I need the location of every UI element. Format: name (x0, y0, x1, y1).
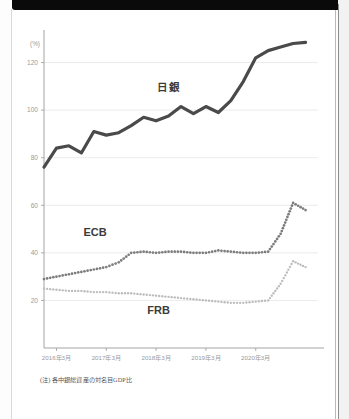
series-dot-ECB (145, 251, 148, 254)
x-tick-label: 2016年3月 (42, 354, 71, 362)
series-dot-ECB (276, 238, 279, 241)
series-dot-FRB (105, 291, 107, 293)
series-dot-FRB (223, 301, 225, 303)
y-tick-label: 40 (31, 249, 39, 256)
series-dot-ECB (52, 276, 55, 279)
series-dot-FRB (220, 301, 222, 303)
series-dot-FRB (271, 294, 273, 296)
series-dot-FRB (202, 299, 204, 301)
series-dot-FRB (99, 291, 101, 293)
series-dot-FRB (267, 299, 269, 301)
series-dot-FRB (258, 300, 260, 302)
series-dot-ECB (186, 251, 189, 254)
series-dot-FRB (186, 297, 188, 299)
series-dot-FRB (170, 296, 172, 298)
series-dot-ECB (297, 204, 300, 207)
series-dot-FRB (102, 291, 104, 293)
series-dot-FRB (121, 292, 123, 294)
series-dot-FRB (80, 290, 82, 292)
series-dot-ECB (229, 250, 232, 253)
series-dot-FRB (283, 277, 285, 279)
y-tick-label: 60 (31, 202, 39, 209)
series-dot-ECB (208, 251, 211, 254)
series-dot-FRB (142, 293, 144, 295)
series-dot-ECB (127, 253, 130, 256)
series-dot-FRB (158, 295, 160, 297)
series-dot-ECB (286, 216, 289, 219)
series-dot-ECB (242, 251, 245, 254)
series-dot-ECB (214, 250, 217, 253)
y-axis-unit-label: (%) (30, 40, 40, 48)
series-dot-FRB (62, 289, 64, 291)
series-dot-ECB (189, 251, 192, 254)
series-dot-ECB (99, 267, 102, 270)
series-dot-FRB (192, 298, 194, 300)
series-dot-FRB (152, 294, 154, 296)
series-dot-FRB (164, 295, 166, 297)
series-label-ECB: ECB (83, 226, 106, 238)
series-dot-ECB (270, 245, 273, 248)
series-dot-ECB (64, 273, 67, 276)
series-dot-ECB (274, 240, 277, 243)
gridlines (44, 63, 318, 301)
series-dot-FRB (90, 291, 92, 293)
series-dot-FRB (124, 292, 126, 294)
series-dot-ECB (248, 251, 251, 254)
series-dot-ECB (108, 265, 111, 268)
series-dot-ECB (277, 235, 280, 238)
series-dot-ECB (136, 251, 139, 254)
series-dot-ECB (58, 275, 61, 278)
series-dot-FRB (304, 266, 306, 268)
series-dot-FRB (211, 300, 213, 302)
series-dot-ECB (288, 210, 291, 213)
series-dot-FRB (236, 302, 238, 304)
y-tick-label: 100 (27, 106, 38, 113)
series-dot-ECB (223, 250, 226, 253)
series-dot-FRB (177, 297, 179, 299)
series-dot-ECB (304, 209, 307, 212)
series-dot-FRB (289, 266, 291, 268)
series-dot-ECB (55, 275, 58, 278)
series-dot-FRB (46, 288, 48, 290)
series-dot-ECB (89, 269, 92, 272)
x-tick-group: 2016年3月2017年3月2018年3月2019年3月2020年3月 (42, 348, 270, 362)
series-dot-ECB (280, 230, 283, 233)
series-dot-ECB (133, 251, 136, 254)
chart-svg: 20406080100120 2016年3月2017年3月2018年3月2019… (0, 0, 349, 419)
series-dot-FRB (208, 300, 210, 302)
series-dot-FRB (55, 289, 57, 291)
series-dot-ECB (251, 251, 254, 254)
series-dot-ECB (102, 266, 105, 269)
series-dot-FRB (195, 298, 197, 300)
series-dot-FRB (86, 290, 88, 292)
series-dot-ECB (254, 251, 257, 254)
series-dot-FRB (65, 289, 67, 291)
series-dot-FRB (71, 290, 73, 292)
series-dot-FRB (297, 262, 299, 264)
series-dot-FRB (299, 264, 301, 266)
series-dot-FRB (264, 300, 266, 302)
series-dot-ECB (285, 218, 288, 221)
series-dot-ECB (233, 251, 236, 254)
series-dot-FRB (68, 290, 70, 292)
series-dot-ECB (158, 251, 161, 254)
y-tick-label: 80 (31, 154, 39, 161)
series-dot-ECB (217, 249, 220, 252)
series-dot-FRB (174, 296, 176, 298)
series-dot-FRB (118, 292, 120, 294)
series-dot-ECB (198, 251, 201, 254)
series-dot-ECB (236, 251, 239, 254)
series-dot-FRB (183, 297, 185, 299)
series-dot-ECB (289, 207, 292, 210)
series-dot-ECB (192, 251, 195, 254)
series-label-FRB: FRB (147, 304, 170, 316)
series-dot-ECB (282, 227, 285, 230)
series-dot-FRB (276, 287, 278, 289)
series-dot-FRB (149, 294, 151, 296)
series-dot-ECB (71, 272, 74, 275)
series-dot-FRB (290, 263, 292, 265)
series-dot-ECB (201, 251, 204, 254)
series-dot-FRB (292, 260, 294, 262)
series-dot-ECB (195, 251, 198, 254)
series-dot-FRB (227, 301, 229, 303)
